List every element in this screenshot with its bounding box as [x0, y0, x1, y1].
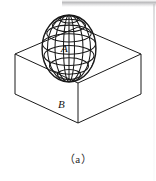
box-label: B: [58, 98, 65, 110]
sphere-label: A: [60, 42, 68, 54]
figure-panel: A B （a）: [0, 0, 156, 181]
box-edge-bottom-left: [15, 94, 78, 123]
figure-caption: （a）: [0, 152, 156, 166]
box-edge-bottom-right: [78, 94, 141, 123]
wireframe-sphere: [42, 15, 96, 82]
